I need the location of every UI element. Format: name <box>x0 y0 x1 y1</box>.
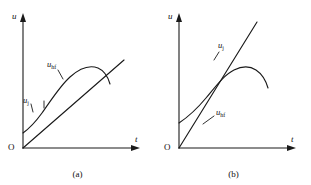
panel-a-label-uj: uj <box>23 96 29 105</box>
panel-b-label-uhf: uhf <box>216 108 225 117</box>
panel-b-caption: (b) <box>156 170 311 179</box>
panel-a-leader-uj <box>31 104 33 112</box>
panel-a-caption: (a) <box>0 170 155 179</box>
panel-a-leader-uhf <box>58 70 63 79</box>
panel-b-leader-uj <box>214 52 219 60</box>
panel-b-y-axis-arrow <box>176 13 182 22</box>
panel-b-label-uj-sub: j <box>222 45 224 51</box>
panel-a-label-uj-sub: j <box>27 100 29 106</box>
panel-a-origin-label: O <box>8 143 15 152</box>
panel-a-x-axis-label: t <box>135 135 138 144</box>
panel-a-y-axis-label: u <box>12 12 17 21</box>
panel-b-label-uhf-sub: hf <box>220 112 225 118</box>
panel-a-x-axis-arrow <box>131 145 140 151</box>
panel-a-line-uj <box>23 60 124 148</box>
panel-b-x-axis-label: t <box>291 135 294 144</box>
panel-b-y-axis-label: u <box>168 12 173 21</box>
panel-b: u t O uj uhf (b) <box>156 0 311 185</box>
panel-b-origin-label: O <box>164 143 171 152</box>
panel-b-x-axis-arrow <box>287 145 296 151</box>
panel-b-leader-uhf <box>203 116 214 124</box>
panel-a: u t O uhf uj (a) <box>0 0 155 185</box>
panel-a-curve-uhf <box>23 67 110 133</box>
panel-b-plot <box>156 0 311 160</box>
panel-a-label-uhf-sub: hf <box>51 64 56 70</box>
panel-a-plot <box>0 0 155 160</box>
figure-root: u t O uhf uj (a) u t <box>0 0 311 185</box>
panel-b-label-uj: uj <box>218 41 224 50</box>
panel-a-y-axis-arrow <box>20 13 26 22</box>
panel-a-label-uhf: uhf <box>47 60 56 69</box>
